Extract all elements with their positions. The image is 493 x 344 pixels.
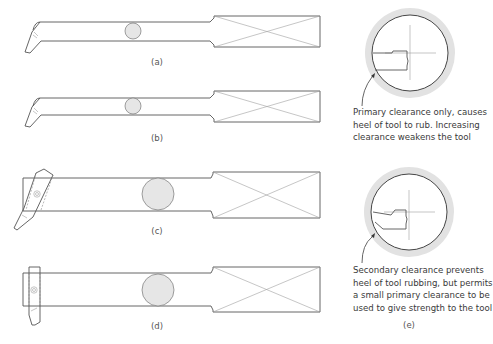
caption-line: Primary clearance only, causes (353, 106, 487, 119)
figure-label-b: (b) (142, 133, 172, 143)
caption-primary-clearance: Primary clearance only, causes heel of t… (353, 106, 487, 144)
figure-label-c: (c) (142, 226, 172, 236)
caption-line: heel of tool to rub. Increasing (353, 119, 487, 132)
tool-b (25, 91, 320, 127)
tool-a (25, 16, 320, 53)
caption-line: heel of tool rubbing, but permits (353, 277, 493, 290)
tool-c (14, 169, 320, 230)
figure-label-a: (a) (142, 57, 172, 67)
caption-line: clearance weakens the tool (353, 131, 487, 144)
bore-detail-secondary (362, 167, 454, 263)
bore-detail-primary (362, 8, 455, 106)
caption-line: used to give strength to the tool (353, 302, 493, 315)
caption-line: Secondary clearance prevents (353, 264, 493, 277)
figure-label-d: (d) (142, 321, 172, 331)
tool-d (23, 267, 320, 325)
caption-line: a small primary clearance to be (353, 289, 493, 302)
caption-secondary-clearance: Secondary clearance prevents heel of too… (353, 264, 493, 314)
figure-label-e: (e) (394, 320, 424, 330)
